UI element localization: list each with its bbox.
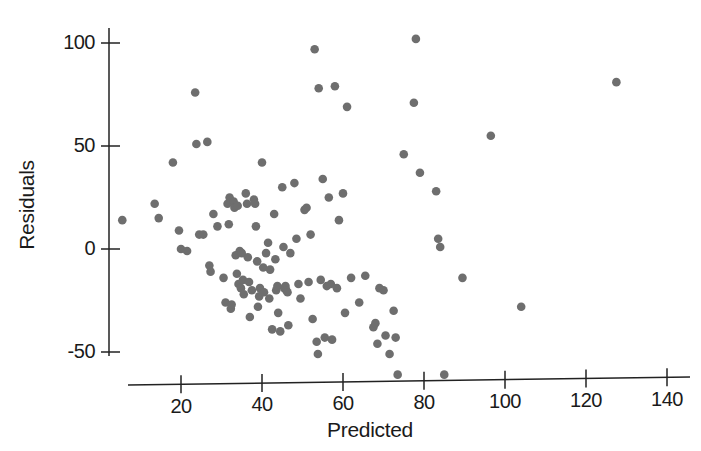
data-point [278,183,287,192]
data-point [458,274,467,283]
data-point [393,370,402,379]
y-tick-group [101,43,120,352]
data-point [284,321,293,330]
data-point [264,239,273,248]
data-point [434,234,443,243]
y-tick-label--50: -50 [68,340,96,362]
data-point [271,255,280,264]
data-point [245,278,254,287]
data-point [381,331,390,340]
data-point [385,350,394,359]
data-point [233,269,242,278]
scatter-plot-canvas: -50050100 20406080100120140 Predicted Re… [0,0,701,451]
data-point [304,278,313,287]
x-axis-line [128,377,690,385]
data-point [203,138,212,147]
data-point [347,274,356,283]
data-point [251,199,260,208]
data-point [248,286,257,295]
data-point [328,335,337,344]
x-tick-label-80: 80 [413,391,435,413]
data-point [440,370,449,379]
data-point [335,216,344,225]
data-point [355,298,364,307]
data-point [436,243,445,252]
data-point [361,271,370,280]
data-point [254,302,263,311]
data-point [191,88,200,97]
data-point [224,220,233,229]
y-axis: -50050100 [63,28,120,362]
data-point [274,309,283,318]
data-point [279,243,288,252]
y-tick-label-100: 100 [63,31,95,53]
data-point [268,325,277,334]
data-point [118,216,127,225]
data-point [242,189,251,198]
data-point [258,158,267,167]
x-tick-label-100: 100 [489,390,521,412]
x-axis: 20406080100120140 [128,368,690,416]
data-point [612,78,621,87]
data-point [302,204,311,213]
data-point [294,280,303,289]
data-point [262,249,271,258]
data-point [316,276,325,285]
y-tick-label-50: 50 [74,134,96,156]
data-point [389,307,398,316]
x-tick-label-40: 40 [251,393,273,415]
data-point [331,82,340,91]
data-point [219,274,228,283]
y-tick-label-group: -50050100 [63,31,95,362]
data-point [286,249,295,258]
data-point [270,210,279,219]
data-point [339,189,348,198]
data-point [318,175,327,184]
data-point [399,150,408,159]
data-point [199,230,208,239]
data-point [233,201,242,210]
data-point [150,199,159,208]
data-point [283,288,292,297]
data-point [244,253,253,262]
data-point [292,234,301,243]
data-point [333,284,342,293]
data-point [517,302,526,311]
data-point [154,214,163,223]
data-point [312,337,321,346]
data-point [373,339,382,348]
data-point [320,333,329,342]
data-point [487,131,496,140]
data-point [343,103,352,112]
x-tick-label-group: 20406080100120140 [170,388,683,417]
data-point [308,315,317,324]
data-point [252,222,261,231]
data-point [290,179,299,188]
data-point-group [118,35,621,379]
data-point [412,35,421,44]
data-point [276,327,285,336]
x-tick-label-120: 120 [570,389,602,411]
data-point [310,45,319,54]
data-point [416,168,425,177]
data-point [379,286,388,295]
data-point [227,300,236,309]
data-point [183,247,192,256]
data-point [314,350,323,359]
data-point [432,187,441,196]
y-tick-label-0: 0 [84,237,95,259]
data-point [169,158,178,167]
data-point [325,193,334,202]
data-point [296,294,305,303]
data-point [206,267,215,276]
data-point [239,290,248,299]
data-point [192,140,201,149]
x-tick-label-20: 20 [170,395,192,417]
data-point [410,98,419,107]
x-axis-title: Predicted [327,418,413,441]
data-point [246,313,255,322]
x-tick-label-60: 60 [332,392,354,414]
data-point [175,226,184,235]
data-point [253,257,262,266]
y-axis-title: Residuals [15,160,38,250]
